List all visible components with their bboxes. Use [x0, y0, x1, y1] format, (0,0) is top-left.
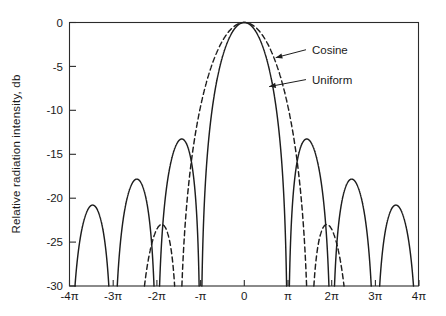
x-axis-ticks [70, 280, 420, 286]
radiation-pattern-chart: 0 -5 -10 -15 -20 -25 -30 -4π -3π -2π -π [0, 0, 446, 316]
y-tick-label: -20 [46, 192, 63, 204]
cosine-arrow-icon [276, 53, 283, 58]
y-axis-ticks [70, 23, 77, 287]
x-tick-label: 4π [412, 290, 426, 302]
y-axis-tick-labels: 0 -5 -10 -15 -20 -25 -30 [46, 17, 63, 293]
x-tick-label: 3π [368, 290, 382, 302]
y-tick-label: -10 [46, 104, 63, 116]
series-group [75, 23, 414, 287]
cosine-annotation-label: Cosine [312, 44, 348, 56]
y-tick-label: -25 [46, 236, 63, 248]
x-tick-label: -2π [148, 290, 166, 302]
y-axis-title: Relative radiation intensity, db [10, 75, 22, 234]
y-tick-label: 0 [57, 17, 63, 29]
x-tick-label: 2π [325, 290, 339, 302]
x-tick-label: -3π [104, 290, 122, 302]
plot-frame [70, 23, 419, 287]
x-tick-label: 0 [241, 290, 247, 302]
cosine-curve [144, 23, 344, 287]
y-tick-label: -15 [46, 148, 63, 160]
x-tick-label: -π [195, 290, 207, 302]
x-axis-tick-labels: -4π -3π -2π -π 0 π 2π 3π 4π [60, 290, 426, 302]
uniform-annotation-label: Uniform [312, 74, 352, 86]
x-tick-label: π [284, 290, 292, 302]
x-tick-label: -4π [60, 290, 78, 302]
y-tick-label: -5 [53, 61, 63, 73]
figure-container: 0 -5 -10 -15 -20 -25 -30 -4π -3π -2π -π [0, 0, 446, 316]
uniform-curve [75, 23, 414, 287]
